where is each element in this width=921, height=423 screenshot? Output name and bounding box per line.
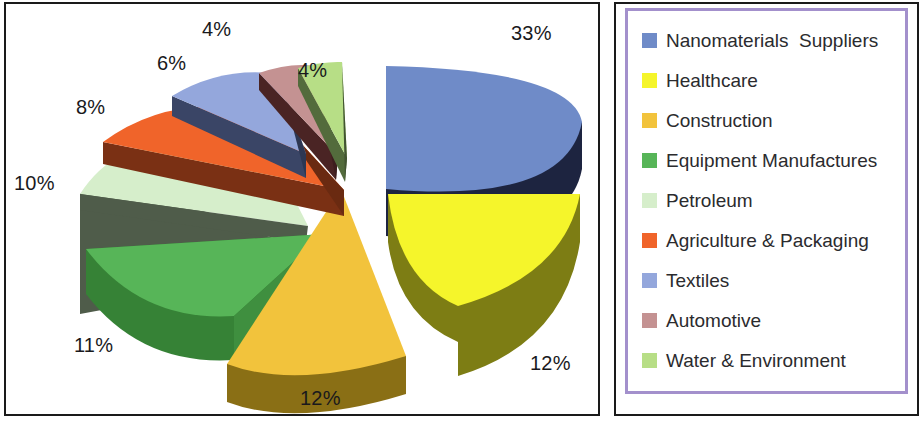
legend-swatch-icon — [642, 113, 657, 128]
legend-swatch-icon — [642, 313, 657, 328]
pie-label-healthcare-12: 12% — [530, 352, 571, 375]
legend-item-construction[interactable]: Construction — [642, 100, 905, 140]
legend-item-nanomaterials-suppliers[interactable]: Nanomaterials Suppliers — [642, 20, 905, 60]
legend-item-label: Agriculture & Packaging — [666, 231, 869, 250]
legend-item-label: Equipment Manufactures — [666, 151, 877, 170]
legend-swatch-icon — [642, 273, 657, 288]
legend-swatch-icon — [642, 193, 657, 208]
legend-swatch-icon — [642, 153, 657, 168]
pie-label-water-environment-4: 4% — [298, 59, 327, 82]
legend-border: Nanomaterials Suppliers Healthcare Const… — [625, 8, 908, 394]
pie-slice-healthcare[interactable] — [388, 194, 580, 376]
legend-swatch-icon — [642, 353, 657, 368]
legend-item-water-environment[interactable]: Water & Environment — [642, 340, 905, 380]
legend-item-label: Petroleum — [666, 191, 753, 210]
chart-panel: 4% 6% 4% 8% 10% 11% 12% 33% 12% — [4, 2, 600, 416]
legend-item-label: Water & Environment — [666, 351, 846, 370]
legend-item-label: Textiles — [666, 271, 729, 290]
pie-label-agriculture-packaging-8: 8% — [76, 96, 105, 119]
legend-item-agriculture-packaging[interactable]: Agriculture & Packaging — [642, 220, 905, 260]
pie-chart-figure: 4% 6% 4% 8% 10% 11% 12% 33% 12% Nanomate… — [0, 0, 921, 423]
legend-item-equipment-manufactures[interactable]: Equipment Manufactures — [642, 140, 905, 180]
legend-swatch-icon — [642, 73, 657, 88]
legend-item-petroleum[interactable]: Petroleum — [642, 180, 905, 220]
pie-label-construction-12: 12% — [300, 387, 341, 410]
legend-item-textiles[interactable]: Textiles — [642, 260, 905, 300]
pie-label-equipment-manufactures-11: 11% — [74, 334, 113, 357]
legend-item-label: Automotive — [666, 311, 761, 330]
legend-swatch-icon — [642, 233, 657, 248]
pie-label-textiles-6: 6% — [157, 52, 186, 75]
legend-item-label: Nanomaterials Suppliers — [666, 31, 878, 50]
legend-item-healthcare[interactable]: Healthcare — [642, 60, 905, 100]
pie-label-automotive-4: 4% — [202, 18, 231, 41]
legend-panel: Nanomaterials Suppliers Healthcare Const… — [614, 2, 919, 416]
pie-label-nanomaterials-33: 33% — [511, 22, 552, 45]
legend-list: Nanomaterials Suppliers Healthcare Const… — [628, 20, 905, 380]
legend-swatch-icon — [642, 33, 657, 48]
pie-label-petroleum-10: 10% — [14, 172, 55, 195]
legend-item-label: Healthcare — [666, 71, 758, 90]
legend-item-label: Construction — [666, 111, 773, 130]
legend-item-automotive[interactable]: Automotive — [642, 300, 905, 340]
